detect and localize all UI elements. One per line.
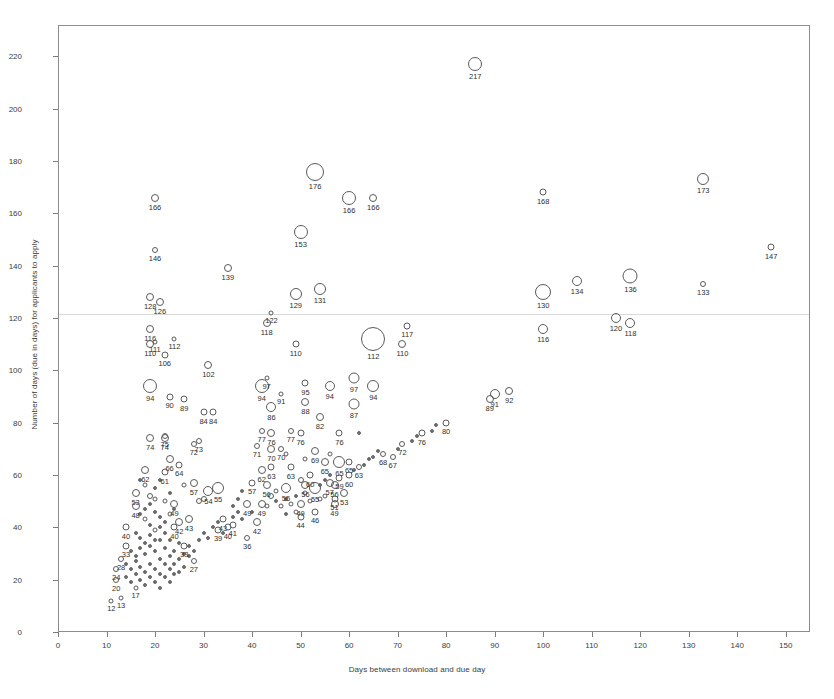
- x-tick-label: 70: [393, 641, 402, 650]
- data-point: [153, 538, 157, 542]
- data-point-label: 43: [185, 524, 193, 533]
- data-point-label: 82: [316, 422, 324, 431]
- data-point: [181, 396, 188, 403]
- data-point-label: 129: [289, 301, 302, 310]
- data-point: [290, 288, 302, 300]
- x-tick-mark: [58, 632, 59, 637]
- data-point: [191, 558, 197, 564]
- data-point: [206, 536, 210, 540]
- data-point: [168, 580, 172, 584]
- data-point: [200, 409, 207, 416]
- data-point-label: 110: [290, 349, 302, 358]
- y-tick-label: 100: [0, 366, 22, 375]
- data-point: [369, 194, 377, 202]
- x-axis-title: Days between download and due day: [0, 665, 834, 674]
- x-tick-label: 40: [248, 641, 257, 650]
- scatter-chart: Days between download and due day Number…: [0, 0, 834, 699]
- data-point: [182, 565, 186, 569]
- data-point-label: 27: [190, 565, 198, 574]
- data-point-label: 39: [214, 534, 222, 543]
- data-point-label: 12: [107, 604, 115, 613]
- data-point: [153, 549, 157, 553]
- data-point: [768, 244, 775, 251]
- data-point-label: 126: [154, 307, 167, 316]
- data-point: [138, 565, 142, 569]
- x-tick-mark: [495, 632, 496, 637]
- data-point: [231, 515, 235, 519]
- data-point: [156, 298, 164, 306]
- y-tick-label: 140: [0, 261, 22, 270]
- data-point-label: 68: [379, 458, 387, 467]
- x-tick-mark: [543, 632, 544, 637]
- data-point-label: 76: [418, 438, 426, 447]
- data-point: [361, 327, 385, 351]
- x-tick-mark: [349, 632, 350, 637]
- data-point: [434, 423, 438, 427]
- data-point: [356, 464, 362, 470]
- data-point: [182, 483, 187, 488]
- x-tick-label: 10: [102, 641, 111, 650]
- data-point-label: 112: [367, 352, 379, 361]
- data-point-label: 40: [122, 532, 130, 541]
- data-point: [267, 445, 275, 453]
- data-point: [333, 456, 345, 468]
- data-point: [327, 452, 332, 457]
- data-point-label: 147: [765, 252, 778, 261]
- data-point: [148, 533, 152, 537]
- data-point: [380, 451, 386, 457]
- data-point-label: 120: [610, 324, 623, 333]
- data-point: [623, 269, 638, 284]
- x-tick-label: 80: [442, 641, 451, 650]
- data-point: [219, 516, 226, 523]
- data-point: [348, 373, 359, 384]
- data-point: [192, 549, 196, 553]
- data-point: [158, 515, 162, 519]
- data-point: [122, 542, 129, 549]
- data-point-label: 92: [505, 396, 513, 405]
- data-point: [336, 430, 343, 437]
- data-point: [168, 567, 172, 571]
- y-tick-mark: [53, 527, 58, 528]
- x-tick-label: 0: [56, 641, 60, 650]
- data-point: [371, 455, 375, 459]
- x-tick-mark: [252, 632, 253, 637]
- data-point-label: 139: [222, 273, 235, 282]
- data-point: [203, 486, 213, 496]
- data-point: [166, 393, 173, 400]
- data-point: [410, 439, 414, 443]
- x-tick-mark: [640, 632, 641, 637]
- data-point: [236, 497, 240, 501]
- data-point: [158, 586, 162, 590]
- data-point: [210, 409, 217, 416]
- data-point: [158, 572, 162, 576]
- data-point-label: 131: [314, 296, 327, 305]
- data-point: [231, 504, 235, 508]
- data-point-label: 63: [355, 471, 363, 480]
- data-point: [279, 391, 284, 396]
- y-tick-mark: [53, 370, 58, 371]
- y-tick-mark: [53, 161, 58, 162]
- data-point: [153, 567, 157, 571]
- data-point: [146, 340, 154, 348]
- data-point-label: 166: [343, 206, 356, 215]
- y-tick-label: 120: [0, 314, 22, 323]
- x-tick-label: 90: [490, 641, 499, 650]
- data-point: [143, 541, 147, 545]
- gridline-y: [59, 314, 809, 315]
- data-point: [486, 395, 494, 403]
- x-tick-label: 110: [585, 641, 598, 650]
- data-point: [172, 336, 177, 341]
- data-point: [312, 508, 319, 515]
- data-point: [148, 575, 152, 579]
- data-point-label: 118: [261, 328, 273, 337]
- x-tick-mark: [301, 632, 302, 637]
- data-point: [143, 552, 147, 556]
- data-point-label: 97: [262, 382, 270, 391]
- data-point-label: 97: [350, 385, 358, 394]
- data-point: [398, 340, 406, 348]
- data-point: [190, 479, 198, 487]
- data-point-label: 106: [158, 359, 171, 368]
- data-point: [146, 293, 154, 301]
- data-point: [146, 325, 154, 333]
- data-point: [244, 535, 250, 541]
